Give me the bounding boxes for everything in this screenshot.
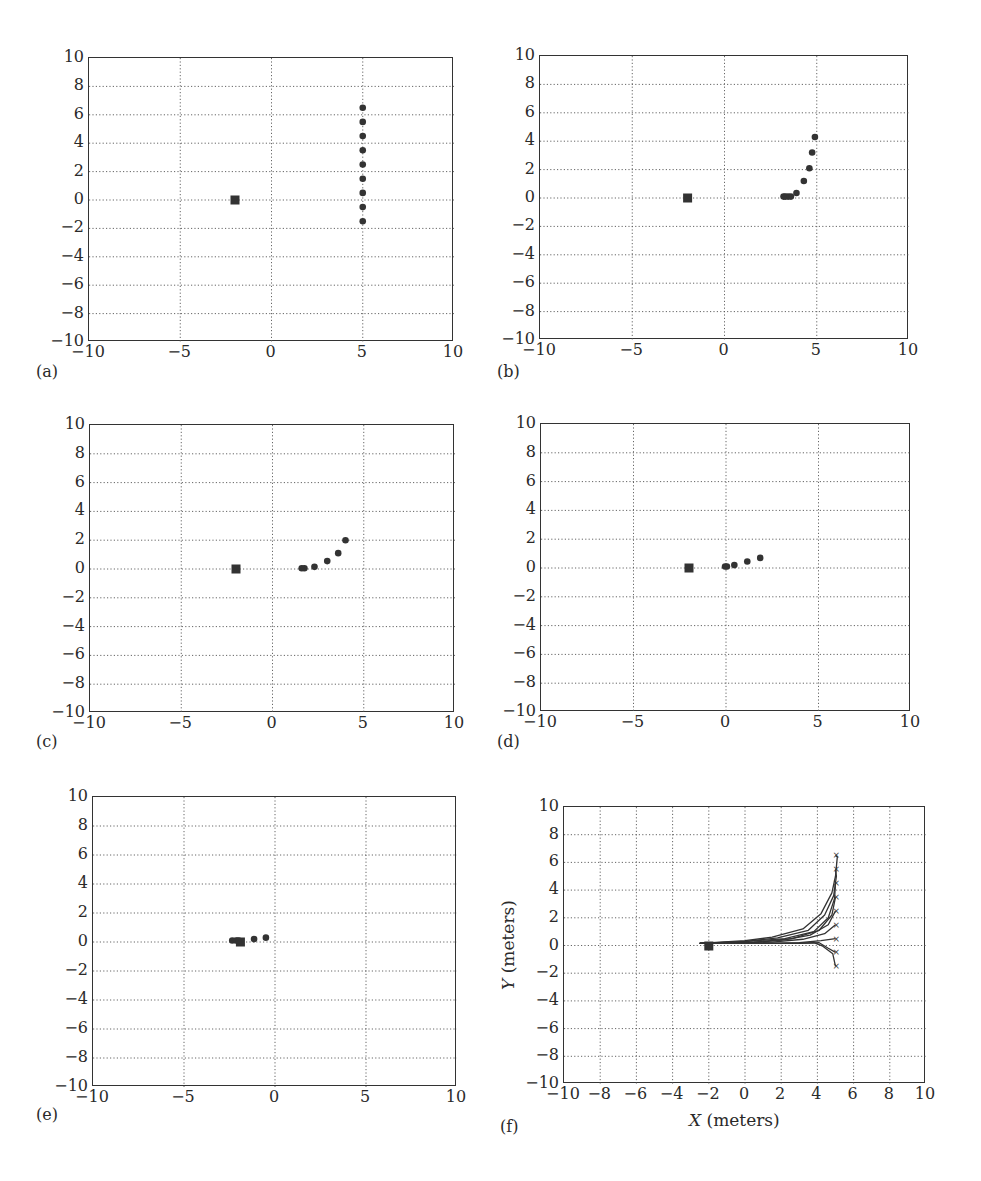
trajectory-line	[700, 943, 836, 967]
y-tick-label: −6	[499, 272, 535, 291]
x-tick-label: 5	[796, 340, 836, 359]
y-tick-label: 0	[523, 935, 559, 954]
plot-canvas	[541, 424, 911, 712]
agent-circle-marker	[342, 537, 349, 544]
y-tick-label: −8	[52, 1047, 88, 1066]
y-tick-label: 4	[49, 500, 85, 519]
agent-circle-marker	[263, 934, 270, 941]
x-tick-label: −6	[615, 1084, 655, 1103]
y-tick-label: 4	[500, 499, 536, 518]
target-square-marker	[683, 194, 692, 203]
y-tick-label: 10	[499, 45, 535, 64]
agent-circle-marker	[335, 550, 342, 557]
y-tick-label: 2	[523, 907, 559, 926]
y-tick-label: −4	[500, 615, 536, 634]
y-tick-label: 2	[49, 529, 85, 548]
x-tick-label: 2	[760, 1084, 800, 1103]
y-tick-label: −2	[52, 960, 88, 979]
x-tick-label: −10	[520, 712, 560, 731]
x-tick-label: 8	[869, 1084, 909, 1103]
x-tick-label: 10	[433, 342, 473, 361]
x-tick-label: 5	[798, 712, 838, 731]
y-tick-label: 6	[48, 104, 84, 123]
y-tick-label: −4	[48, 246, 84, 265]
y-tick-label: 8	[52, 815, 88, 834]
x-axis-title: X (meters)	[689, 1110, 780, 1130]
agent-circle-marker	[801, 178, 808, 185]
agent-circle-marker	[359, 161, 366, 168]
agent-circle-marker	[793, 190, 800, 197]
y-tick-label: −8	[499, 301, 535, 320]
y-tick-label: −6	[500, 643, 536, 662]
y-tick-label: −4	[52, 989, 88, 1008]
x-tick-label: 0	[254, 1087, 294, 1106]
x-tick-label: 4	[796, 1084, 836, 1103]
x-tick-label: −10	[72, 1087, 112, 1106]
plot-area	[89, 424, 454, 712]
y-tick-label: −4	[49, 616, 85, 635]
agent-circle-marker	[806, 165, 813, 172]
start-marker: ×	[833, 906, 841, 916]
y-tick-label: 0	[48, 189, 84, 208]
plot-canvas: ×××××××××	[564, 807, 926, 1084]
x-tick-label: −10	[543, 1084, 583, 1103]
y-tick-label: 2	[500, 528, 536, 547]
y-tick-label: −8	[500, 672, 536, 691]
plot-area	[539, 55, 908, 339]
agent-circle-marker	[780, 193, 787, 200]
start-marker: ×	[833, 920, 841, 930]
agent-circle-marker	[359, 175, 366, 182]
y-tick-label: 2	[52, 902, 88, 921]
agent-circle-marker	[722, 563, 729, 570]
y-tick-label: 2	[48, 161, 84, 180]
x-tick-label: 10	[905, 1084, 945, 1103]
x-tick-label: −5	[159, 342, 199, 361]
y-tick-label: 6	[52, 844, 88, 863]
y-tick-label: −6	[48, 274, 84, 293]
y-tick-label: −6	[49, 644, 85, 663]
plot-area: ×××××××××	[563, 806, 925, 1083]
panel-label: (c)	[36, 732, 57, 751]
y-tick-label: 6	[523, 851, 559, 870]
target-square-marker	[704, 942, 713, 951]
plot-canvas	[89, 58, 454, 342]
x-tick-label: −5	[163, 1087, 203, 1106]
start-marker: ×	[833, 878, 841, 888]
y-tick-label: −4	[523, 990, 559, 1009]
agent-circle-marker	[359, 119, 366, 126]
x-tick-label: −5	[160, 713, 200, 732]
y-tick-label: 0	[49, 558, 85, 577]
x-tick-label: 10	[436, 1087, 476, 1106]
agent-circle-marker	[757, 555, 764, 562]
y-tick-label: −2	[49, 587, 85, 606]
x-tick-label: −5	[613, 712, 653, 731]
y-tick-label: −8	[49, 673, 85, 692]
plot-area	[88, 57, 453, 341]
start-marker: ×	[833, 892, 841, 902]
x-tick-label: −10	[69, 713, 109, 732]
agent-circle-marker	[809, 149, 816, 156]
panel-label: (b)	[497, 362, 520, 381]
y-tick-label: 2	[499, 159, 535, 178]
y-tick-label: 0	[52, 931, 88, 950]
y-tick-label: 10	[523, 796, 559, 815]
start-marker: ×	[833, 934, 841, 944]
y-tick-label: 6	[500, 471, 536, 490]
agent-circle-marker	[812, 134, 819, 141]
x-tick-label: −10	[519, 340, 559, 359]
x-tick-label: 0	[251, 342, 291, 361]
y-tick-label: 8	[499, 73, 535, 92]
panel-label: (a)	[36, 362, 58, 381]
y-tick-label: −6	[523, 1018, 559, 1037]
panel-label: (f)	[500, 1117, 518, 1136]
y-tick-label: −6	[52, 1018, 88, 1037]
plot-canvas	[93, 797, 457, 1087]
y-axis-title: Y (meters)	[498, 890, 518, 1000]
x-tick-label: 0	[705, 712, 745, 731]
y-tick-label: −2	[500, 586, 536, 605]
x-tick-label: 5	[343, 713, 383, 732]
y-tick-label: −2	[523, 962, 559, 981]
plot-area	[540, 423, 910, 711]
agent-circle-marker	[359, 133, 366, 140]
trajectory-line	[700, 943, 836, 953]
